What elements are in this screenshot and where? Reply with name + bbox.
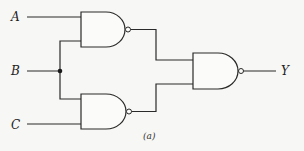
inversion-bubble-icon (127, 109, 132, 114)
wire-b-fanout (60, 41, 81, 99)
output-label-y: Y (281, 64, 290, 78)
nand-gate-1 (81, 12, 131, 47)
logic-circuit-diagram: A B C Y (a) (0, 0, 304, 151)
input-label-a: A (10, 10, 20, 24)
input-label-b: B (10, 64, 20, 78)
figure-caption: (a) (143, 131, 156, 141)
junction-dot-b (58, 69, 63, 74)
wire-g1-to-g3 (131, 30, 194, 61)
inversion-bubble-icon (239, 69, 244, 74)
nand-gate-3 (193, 53, 244, 89)
circuit-svg: A B C Y (a) (0, 0, 304, 151)
input-label-c: C (11, 118, 20, 132)
nand-gate-2 (81, 94, 132, 129)
inversion-bubble-icon (126, 27, 131, 32)
wire-g2-to-g3 (132, 84, 194, 112)
